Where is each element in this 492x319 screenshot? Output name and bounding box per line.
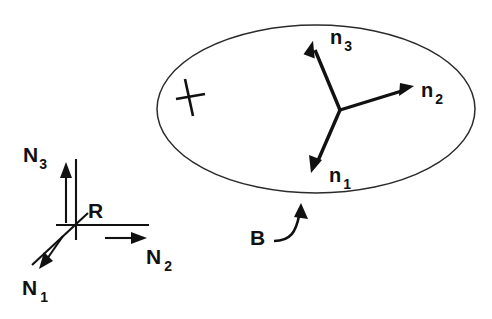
arrowhead-n2 (399, 83, 414, 96)
arrowhead-body-leader (294, 203, 308, 219)
label-n1: n1 (329, 164, 351, 192)
arrowhead-N2 (131, 232, 147, 244)
reference-frame-group: R N3 N2 N1 (22, 143, 172, 305)
body-fixed-basis-group: n3 n2 n1 (304, 26, 444, 192)
label-N2: N2 (146, 245, 172, 274)
curved-leader-arrow (274, 216, 299, 241)
diagram-canvas: n3 n2 n1 B (0, 0, 492, 319)
label-R: R (88, 199, 103, 222)
vector-diagram: n3 n2 n1 B (0, 0, 492, 319)
vector-n3 (315, 50, 340, 110)
vector-n2 (340, 90, 405, 110)
label-n2: n2 (421, 79, 443, 107)
material-point-cross-icon (176, 79, 205, 116)
label-B: B (250, 226, 265, 249)
arrowhead-N3 (60, 162, 72, 178)
body-label-group: B (250, 203, 308, 249)
label-n3: n3 (330, 26, 352, 54)
label-N3: N3 (23, 143, 47, 172)
label-N1: N1 (22, 276, 48, 305)
vector-n1 (317, 110, 340, 163)
